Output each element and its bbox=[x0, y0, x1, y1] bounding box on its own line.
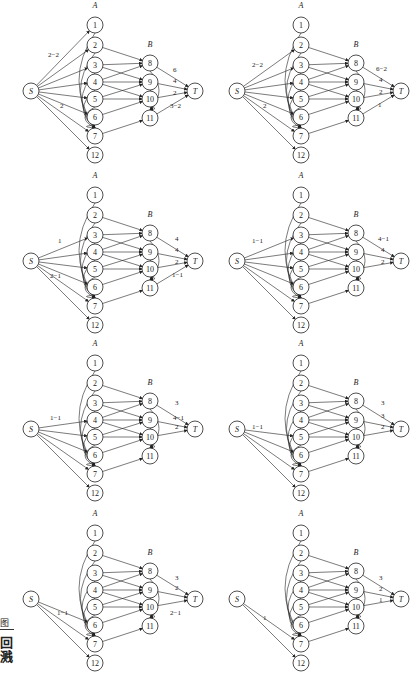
edges bbox=[243, 371, 395, 487]
svg-text:7: 7 bbox=[93, 132, 97, 141]
edge-10-to-t bbox=[158, 262, 187, 267]
svg-text:8: 8 bbox=[148, 59, 152, 68]
edge-4-to-8 bbox=[309, 236, 349, 250]
node-t: T bbox=[187, 591, 203, 607]
node-10: 10 bbox=[142, 429, 158, 445]
node-8: 8 bbox=[348, 225, 364, 241]
group-label-b: B bbox=[148, 40, 153, 49]
group-label-b: B bbox=[148, 548, 153, 557]
svg-text:2: 2 bbox=[299, 41, 303, 50]
edges bbox=[37, 541, 189, 657]
edge-4-to-8 bbox=[103, 236, 143, 250]
node-9: 9 bbox=[348, 74, 364, 90]
svg-text:11: 11 bbox=[146, 622, 154, 631]
edge-4-to-8 bbox=[103, 404, 143, 418]
node-7: 7 bbox=[87, 298, 103, 314]
node-11: 11 bbox=[142, 618, 158, 634]
edge-s-to-7 bbox=[244, 604, 295, 640]
node-7: 7 bbox=[87, 466, 103, 482]
node-12: 12 bbox=[87, 655, 103, 671]
node-3: 3 bbox=[293, 57, 309, 73]
node-3: 3 bbox=[87, 227, 103, 243]
edge-flow-label: 4 bbox=[381, 246, 385, 254]
svg-text:10: 10 bbox=[146, 265, 154, 274]
edge-3-to-8 bbox=[309, 63, 348, 64]
edge-4-to-8 bbox=[103, 574, 143, 588]
svg-text:11: 11 bbox=[146, 114, 154, 123]
edge-flow-label: 2−2 bbox=[252, 61, 263, 69]
node-1: 1 bbox=[87, 525, 103, 541]
node-9: 9 bbox=[142, 74, 158, 90]
svg-text:4: 4 bbox=[93, 586, 97, 595]
svg-text:12: 12 bbox=[297, 659, 305, 668]
svg-text:1: 1 bbox=[93, 21, 97, 30]
edge-s-to-12 bbox=[243, 267, 296, 320]
svg-text:7: 7 bbox=[93, 470, 97, 479]
svg-text:9: 9 bbox=[354, 586, 358, 595]
svg-text:9: 9 bbox=[354, 78, 358, 87]
svg-text:5: 5 bbox=[93, 433, 97, 442]
group-label-a: A bbox=[298, 1, 304, 10]
node-12: 12 bbox=[293, 147, 309, 163]
node-6: 6 bbox=[293, 447, 309, 463]
node-s: S bbox=[229, 83, 245, 99]
node-s: S bbox=[23, 83, 39, 99]
edge-flow-label: 2 bbox=[175, 423, 179, 431]
svg-text:1: 1 bbox=[299, 359, 303, 368]
node-8: 8 bbox=[142, 393, 158, 409]
edge-flow-label: 2 bbox=[60, 102, 64, 110]
edge-6-to-10 bbox=[103, 609, 143, 622]
node-9: 9 bbox=[348, 412, 364, 428]
edge-flow-label: 2−2 bbox=[48, 51, 59, 59]
edge-flow-label: 2−1 bbox=[50, 272, 61, 280]
svg-text:11: 11 bbox=[146, 284, 154, 293]
svg-text:5: 5 bbox=[93, 95, 97, 104]
node-10: 10 bbox=[348, 261, 364, 277]
node-6: 6 bbox=[293, 617, 309, 633]
edge-s-to-2 bbox=[37, 50, 88, 87]
svg-text:6: 6 bbox=[93, 113, 97, 122]
node-t: T bbox=[393, 83, 409, 99]
edge-9-to-t bbox=[158, 592, 187, 598]
edge-9-to-t bbox=[158, 422, 187, 428]
edge-3-to-9 bbox=[103, 575, 143, 587]
node-7: 7 bbox=[293, 128, 309, 144]
node-9: 9 bbox=[348, 244, 364, 260]
node-8: 8 bbox=[142, 225, 158, 241]
node-9: 9 bbox=[348, 582, 364, 598]
node-s: S bbox=[23, 253, 39, 269]
node-6: 6 bbox=[293, 279, 309, 295]
edge-flow-label: 4 bbox=[173, 77, 177, 85]
edge-6-to-10 bbox=[309, 439, 349, 452]
node-4: 4 bbox=[293, 74, 309, 90]
edge-flow-label: 3 bbox=[175, 574, 179, 582]
node-1: 1 bbox=[293, 525, 309, 541]
group-label-a: A bbox=[92, 339, 98, 348]
node-7: 7 bbox=[87, 128, 103, 144]
edge-flow-label: 4 bbox=[379, 76, 383, 84]
edge-7-to-11 bbox=[309, 290, 349, 303]
edge-3-to-9 bbox=[309, 237, 349, 249]
node-5: 5 bbox=[87, 261, 103, 277]
node-t: T bbox=[393, 421, 409, 437]
node-5: 5 bbox=[293, 429, 309, 445]
node-5: 5 bbox=[87, 599, 103, 615]
node-12: 12 bbox=[293, 485, 309, 501]
svg-text:6: 6 bbox=[299, 283, 303, 292]
node-11: 11 bbox=[348, 110, 364, 126]
svg-text:5: 5 bbox=[299, 433, 303, 442]
svg-text:9: 9 bbox=[148, 78, 152, 87]
node-8: 8 bbox=[142, 563, 158, 579]
edge-flow-label: 3−2 bbox=[170, 102, 181, 110]
edge-3-to-9 bbox=[309, 575, 349, 587]
svg-text:8: 8 bbox=[148, 397, 152, 406]
edge-7-to-11 bbox=[103, 290, 143, 303]
node-3: 3 bbox=[87, 565, 103, 581]
svg-text:2: 2 bbox=[93, 379, 97, 388]
edge-flow-label: 2 bbox=[381, 423, 385, 431]
edge-flow-label: 1 bbox=[379, 596, 383, 604]
node-1: 1 bbox=[293, 17, 309, 33]
node-t: T bbox=[187, 253, 203, 269]
svg-text:4: 4 bbox=[299, 586, 303, 595]
node-7: 7 bbox=[293, 466, 309, 482]
